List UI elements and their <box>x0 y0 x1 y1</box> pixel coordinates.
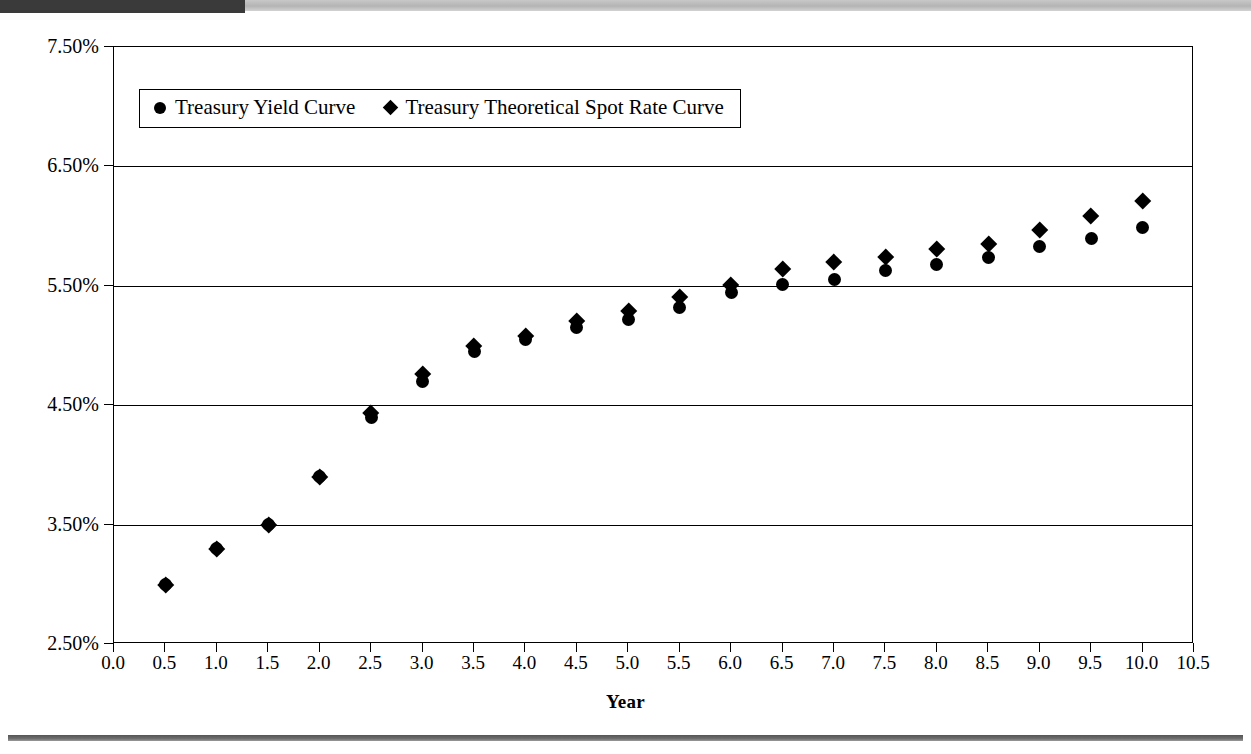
y-axis-tick-mark <box>104 165 113 166</box>
y-axis-tick-label: 7.50% <box>3 36 99 56</box>
data-point-diamond <box>826 254 842 270</box>
legend-entry-yield-curve: Treasury Yield Curve <box>154 96 355 119</box>
data-point-diamond <box>1083 207 1099 223</box>
x-axis-tick-mark <box>1193 643 1194 652</box>
y-axis-tick-mark <box>104 524 113 525</box>
x-axis-tick-mark <box>987 643 988 652</box>
diamond-marker-icon <box>383 100 399 116</box>
data-point-circle <box>879 264 892 277</box>
legend-label-yield-curve: Treasury Yield Curve <box>175 96 355 119</box>
x-axis-tick-mark <box>782 643 783 652</box>
x-axis-tick-mark <box>267 643 268 652</box>
data-point-circle <box>982 251 995 264</box>
x-axis-tick-mark <box>216 643 217 652</box>
x-axis-tick-mark <box>422 643 423 652</box>
x-axis-tick-mark <box>473 643 474 652</box>
data-point-diamond <box>877 249 893 265</box>
data-point-diamond <box>774 261 790 277</box>
x-axis-tick-mark <box>627 643 628 652</box>
x-axis-tick-mark <box>1039 643 1040 652</box>
x-axis-tick-mark <box>524 643 525 652</box>
circle-marker-icon <box>154 102 166 114</box>
footer-rule <box>8 735 1243 741</box>
x-axis-tick-label: 10.5 <box>1158 653 1228 672</box>
plot-area <box>113 46 1193 643</box>
y-axis-tick-mark <box>104 46 113 47</box>
y-axis-tick-label: 2.50% <box>3 633 99 653</box>
x-axis-tick-mark <box>164 643 165 652</box>
gridline-horizontal <box>114 166 1192 167</box>
x-axis-tick-mark <box>884 643 885 652</box>
data-point-circle <box>930 258 943 271</box>
y-axis-tick-label: 4.50% <box>3 394 99 414</box>
data-point-diamond <box>1134 193 1150 209</box>
chart-figure: 7.50%6.50%5.50%4.50%3.50%2.50% 0.00.51.0… <box>0 13 1251 728</box>
gridline-horizontal <box>114 405 1192 406</box>
x-axis-tick-mark <box>370 643 371 652</box>
gridline-horizontal <box>114 286 1192 287</box>
header-accent-bar-dark <box>0 0 245 13</box>
data-point-circle <box>776 278 789 291</box>
data-point-diamond <box>157 576 173 592</box>
x-axis-tick-mark <box>833 643 834 652</box>
x-axis-tick-mark <box>1142 643 1143 652</box>
x-axis-tick-mark <box>1090 643 1091 652</box>
x-axis-tick-mark <box>730 643 731 652</box>
data-point-diamond <box>980 236 996 252</box>
y-axis-tick-mark <box>104 643 113 644</box>
data-point-circle <box>828 273 841 286</box>
data-point-diamond <box>929 241 945 257</box>
data-point-diamond <box>1032 222 1048 238</box>
y-axis-tick-mark <box>104 285 113 286</box>
data-point-circle <box>1085 232 1098 245</box>
x-axis-title: Year <box>0 691 1251 713</box>
x-axis-tick-mark <box>679 643 680 652</box>
x-axis-tick-mark <box>319 643 320 652</box>
x-axis-tick-mark <box>936 643 937 652</box>
y-axis-tick-mark <box>104 404 113 405</box>
y-axis-tick-label: 6.50% <box>3 155 99 175</box>
data-point-circle <box>1033 240 1046 253</box>
legend-label-spot-rate-curve: Treasury Theoretical Spot Rate Curve <box>405 96 723 119</box>
x-axis-tick-mark <box>113 643 114 652</box>
y-axis-tick-label: 5.50% <box>3 275 99 295</box>
y-axis-tick-label: 3.50% <box>3 514 99 534</box>
chart-legend: Treasury Yield Curve Treasury Theoretica… <box>139 89 741 128</box>
data-point-diamond <box>260 516 276 532</box>
x-axis-tick-mark <box>576 643 577 652</box>
header-accent-bar-light <box>245 0 1251 11</box>
legend-entry-spot-rate-curve: Treasury Theoretical Spot Rate Curve <box>385 96 723 119</box>
data-point-circle <box>1136 221 1149 234</box>
